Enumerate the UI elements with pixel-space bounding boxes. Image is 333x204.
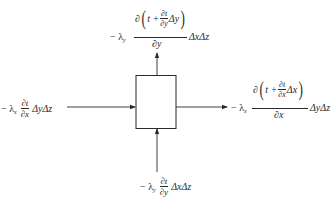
bottom-derivative: ∂t ∂y	[160, 176, 168, 197]
left-derivative: ∂t ∂x	[21, 98, 29, 119]
top-flux-denominator: ∂y	[152, 38, 161, 49]
right-inner-derivative: ∂t ∂x	[278, 80, 286, 99]
right-flux-tail: ΔyΔz	[310, 102, 330, 113]
control-volume-box	[136, 76, 176, 129]
top-flux-numerator: ∂ ( t + ∂t ∂y Δy )	[135, 3, 186, 33]
bottom-coef: − λy	[140, 181, 156, 193]
right-flux-denominator: ∂x	[274, 109, 283, 120]
top-inner-derivative: ∂t ∂y	[160, 9, 168, 28]
bottom-tail: ΔxΔz	[171, 181, 191, 192]
top-flux-coef: − λy	[110, 31, 126, 43]
top-flux-tail: ΔxΔz	[189, 31, 209, 42]
right-flux-coef: − λx	[231, 102, 247, 114]
left-coef: − λx	[1, 103, 17, 115]
left-flux-label: − λx ∂t ∂x ΔyΔz	[1, 98, 52, 119]
left-tail: ΔyΔz	[32, 103, 52, 114]
right-flux-numerator: ∂ ( t + ∂t ∂x Δx )	[253, 74, 304, 104]
bottom-flux-label: − λy ∂t ∂y ΔxΔz	[140, 176, 191, 197]
